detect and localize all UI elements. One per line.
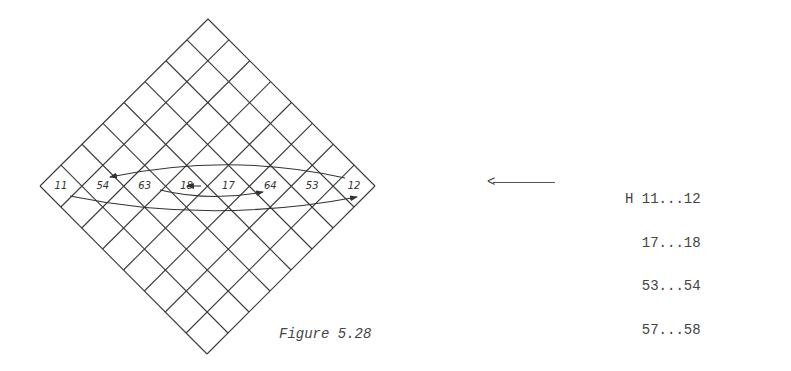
h-pair: 53...54 bbox=[642, 278, 701, 294]
h-pair-list: H 11...12 17...18 53...54 57...58 bbox=[625, 163, 701, 352]
h-list-row: 53...54 bbox=[625, 279, 701, 294]
cell-label: 53 bbox=[306, 180, 319, 191]
cell-label: 54 bbox=[96, 180, 109, 191]
h-pair: 11...12 bbox=[642, 191, 701, 207]
h-list-row: 17...18 bbox=[625, 236, 701, 251]
left-pointer-arrow: < bbox=[487, 174, 555, 190]
cell-label: 12 bbox=[348, 180, 361, 191]
h-list-row: 57...58 bbox=[625, 323, 701, 338]
cell-label: 11 bbox=[55, 180, 68, 191]
cell-label: 64 bbox=[264, 180, 277, 191]
h-prefix: H bbox=[625, 191, 633, 207]
cell-label: 17 bbox=[222, 180, 235, 191]
cell-label: 63 bbox=[138, 180, 151, 191]
diamond-grid-diagram: 1154631817645312 bbox=[0, 0, 420, 371]
grid-lines bbox=[40, 19, 375, 354]
arrow-shaft bbox=[493, 182, 555, 183]
h-list-row: H 11...12 bbox=[625, 192, 701, 207]
h-pair: 57...58 bbox=[642, 322, 701, 338]
h-pair: 17...18 bbox=[642, 235, 701, 251]
figure-caption: Figure 5.28 bbox=[279, 326, 371, 342]
